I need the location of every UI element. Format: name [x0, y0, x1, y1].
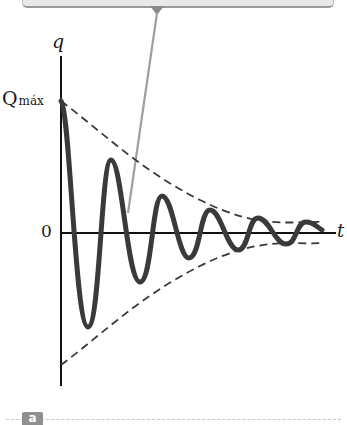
charge-curve [61, 101, 322, 327]
footer-divider [6, 419, 341, 420]
qmax-subscript: máx [19, 94, 44, 108]
qmax-main: Q [2, 87, 18, 109]
qmax-label: Qmáx [2, 89, 44, 108]
y-axis-label: q [52, 32, 64, 51]
callout-pointer-line [128, 13, 157, 213]
x-axis-label: t [337, 222, 344, 240]
zero-label: 0 [41, 223, 52, 240]
panel-label: a [22, 412, 43, 425]
upper-envelope [61, 101, 324, 223]
